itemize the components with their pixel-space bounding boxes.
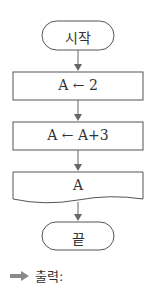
end-label: 끝 xyxy=(42,228,114,248)
answer-row: 출력: xyxy=(10,266,63,285)
output-label: A xyxy=(13,177,143,193)
step2-label: A ← A+3 xyxy=(13,127,143,143)
start-label: 시작 xyxy=(42,27,114,47)
step1-label: A ← 2 xyxy=(13,77,143,93)
answer-label: 출력: xyxy=(35,266,63,285)
arrow-right-icon xyxy=(10,271,30,281)
